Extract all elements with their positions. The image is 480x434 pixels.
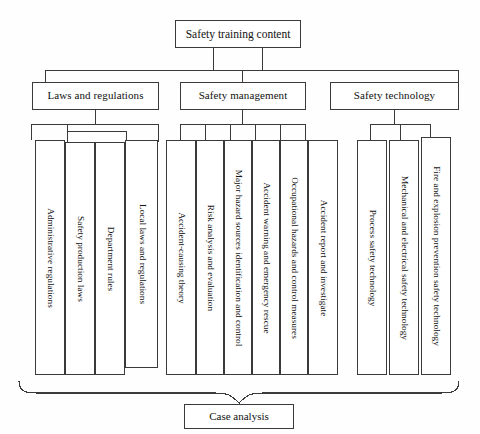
node-leaf-label: Process safety technology: [367, 209, 376, 306]
node-leaf-department-rules: Department rules: [95, 142, 125, 375]
node-leaf-label: Major hazard sources identification and …: [233, 169, 242, 346]
node-leaf-mechanical-and-electrical-safety-technology: Mechanical and electrical safety technol…: [389, 140, 419, 375]
node-branch-label: Safety management: [199, 90, 288, 102]
node-leaf-label: Accident-causing theory: [176, 212, 185, 303]
node-leaf-label: Mechanical and electrical safety technol…: [399, 176, 408, 340]
node-leaf-major-hazard-sources-identification-and-control: Major hazard sources identification and …: [224, 140, 252, 375]
node-branch-label: Safety technology: [354, 90, 435, 102]
node-branch-label: Laws and regulations: [47, 90, 143, 102]
node-leaf-safety-production-laws: Safety production laws: [65, 142, 95, 375]
diagram-canvas: Safety training content Laws and regulat…: [0, 0, 480, 434]
node-leaf-label: Accident warning and emergency rescue: [261, 182, 270, 333]
node-leaf-accident-causing-theory: Accident-causing theory: [166, 140, 196, 375]
node-branch-safety-management: Safety management: [180, 82, 306, 110]
node-branch-laws-and-regulations: Laws and regulations: [32, 82, 159, 110]
node-leaf-risk-analysis-and-evaluation: Risk analysis and evaluation: [196, 140, 224, 375]
node-footer-label: Case analysis: [209, 411, 269, 423]
node-leaf-occupational-hazards-and-control-measures: Occupational hazards and control measure…: [280, 140, 308, 375]
node-leaf-label: Department rules: [105, 226, 114, 290]
node-branch-safety-technology: Safety technology: [330, 82, 459, 110]
node-root-label: Safety training content: [186, 28, 291, 40]
node-leaf-fire-and-explosion-prevention-safety-technology: Fire and explosion prevention safety tec…: [421, 137, 451, 375]
node-leaf-process-safety-technology: Process safety technology: [357, 140, 387, 375]
node-leaf-local-laws-and-regulations: Local laws and regulations: [125, 140, 158, 368]
node-root: Safety training content: [175, 20, 301, 48]
node-footer-case-analysis: Case analysis: [184, 404, 294, 429]
node-leaf-accident-report-and-investigate: Accident report and investigate: [308, 140, 338, 375]
node-leaf-label: Administrative regulations: [45, 208, 54, 308]
node-leaf-administrative-regulations: Administrative regulations: [35, 140, 65, 375]
node-leaf-label: Accident report and investigate: [318, 199, 327, 316]
node-leaf-label: Fire and explosion prevention safety tec…: [431, 166, 440, 346]
node-leaf-label: Risk analysis and evaluation: [205, 204, 214, 310]
node-leaf-label: Safety production laws: [75, 216, 84, 302]
node-leaf-label: Occupational hazards and control measure…: [289, 177, 298, 339]
node-leaf-accident-warning-and-emergency-rescue: Accident warning and emergency rescue: [252, 140, 280, 375]
node-leaf-label: Local laws and regulations: [137, 204, 146, 304]
